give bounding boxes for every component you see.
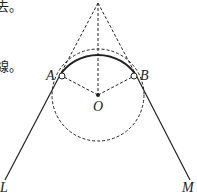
label-L: L bbox=[0, 180, 8, 194]
right-angle-marker-A bbox=[59, 73, 65, 79]
label-A: A bbox=[45, 68, 55, 83]
label-O: O bbox=[93, 99, 103, 114]
label-B: B bbox=[140, 68, 149, 83]
dashed-radius-OA bbox=[60, 75, 98, 95]
center-point-O bbox=[96, 93, 100, 97]
solid-line-AL bbox=[5, 75, 60, 180]
dashed-tangent-CA bbox=[60, 3, 98, 75]
label-M: M bbox=[181, 180, 195, 194]
dashed-tangent-CB bbox=[98, 3, 136, 75]
geometry-diagram: A B O L M bbox=[0, 0, 197, 194]
right-angle-marker-B bbox=[131, 73, 137, 79]
solid-line-BM bbox=[136, 75, 190, 180]
dashed-radius-OB bbox=[98, 75, 136, 95]
